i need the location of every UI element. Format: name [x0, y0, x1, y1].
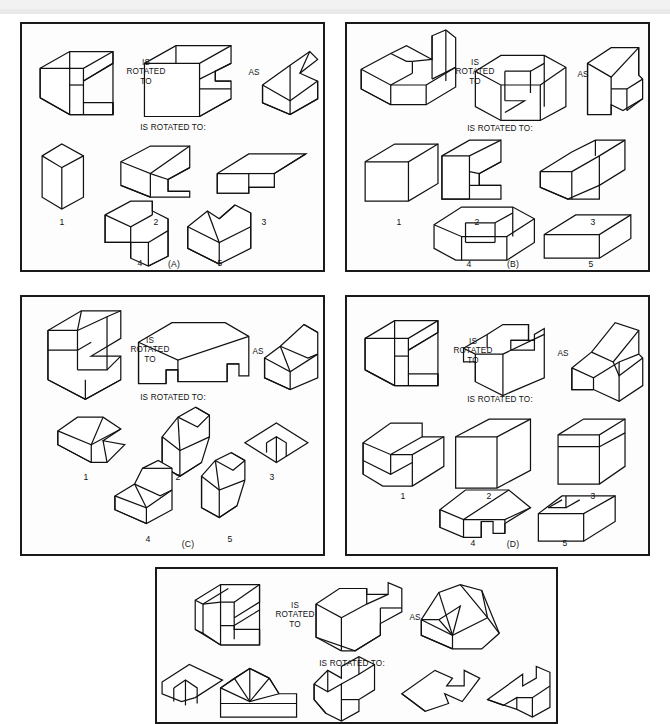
panel-d-stem-object [365, 321, 438, 386]
panel-c-option-2-label[interactable]: 2 [170, 473, 186, 483]
panel-b-as-label: AS [573, 70, 593, 80]
panel-b-option-1-label[interactable]: 1 [391, 218, 407, 228]
panel-d-option-2-label[interactable]: 2 [481, 492, 497, 502]
panel-d-option-1-label[interactable]: 1 [395, 492, 411, 502]
panel-d-option-3-label[interactable]: 3 [585, 492, 601, 502]
page-header-band [0, 9, 670, 14]
panel-e-option-2-figure [221, 668, 297, 717]
panel-d-as-object [572, 323, 643, 402]
panel-b-caption: (B) [499, 260, 527, 270]
panel-a-option-2-figure [121, 146, 190, 197]
panel-b-option-3-figure [540, 140, 625, 199]
panel-e-as-object [421, 585, 499, 649]
panel-b-option-5-label[interactable]: 5 [583, 260, 599, 270]
panel-d-caption: (D) [499, 540, 527, 550]
panel-a-option-5-figure [188, 205, 251, 264]
panel-a-option-4-label[interactable]: 4 [132, 259, 148, 269]
panel-a-option-1-label[interactable]: 1 [54, 218, 70, 228]
panel-b-stem-object [361, 30, 455, 105]
panel-d-question-label: IS ROTATED TO: [435, 395, 565, 405]
panel-d-option-3-figure [558, 419, 625, 484]
panel-d-prompt-label: IS ROTATED TO [449, 337, 497, 365]
panel-a-prompt-label: IS ROTATED TO [122, 58, 170, 86]
panel-c-prompt-label: IS ROTATED TO [126, 336, 174, 364]
panel-a-caption: (A) [160, 260, 188, 270]
panel-b-question-label: IS ROTATED TO: [435, 124, 565, 134]
panel-b-prompt-label: IS ROTATED TO [451, 58, 499, 86]
panel-a-option-4-figure [105, 201, 168, 266]
panel-b: IS ROTATED TO AS IS ROTATED TO: 1 2 3 4 … [345, 22, 650, 272]
panel-b-option-4-label[interactable]: 4 [461, 260, 477, 270]
panel-a-option-3-label[interactable]: 3 [256, 218, 272, 228]
panel-e-rotated-object [316, 583, 402, 651]
panel-d-option-5-label[interactable]: 5 [557, 539, 573, 549]
panel-a-option-2-label[interactable]: 2 [148, 218, 164, 228]
panel-e-figures [157, 569, 556, 722]
panel-c-as-label: AS [248, 347, 268, 357]
panel-e-prompt-label: IS ROTATED TO [271, 601, 319, 629]
panel-c-option-3-label[interactable]: 3 [264, 473, 280, 483]
panel-a-option-5-label[interactable]: 5 [212, 259, 228, 269]
panel-a-option-1-figure [42, 144, 83, 209]
panel-c-option-1-label[interactable]: 1 [78, 473, 94, 483]
panel-a-figures [22, 24, 323, 270]
panel-a: IS ROTATED TO AS IS ROTATED TO: 1 2 3 4 … [20, 22, 325, 272]
panel-c: IS ROTATED TO AS IS ROTATED TO: 1 2 3 4 … [20, 295, 325, 556]
panel-c-option-5-figure [202, 453, 245, 518]
panel-c-option-2-figure [162, 407, 209, 476]
panel-a-as-object [263, 52, 318, 115]
panel-c-option-1-figure [58, 417, 125, 462]
figure-page: IS ROTATED TO AS IS ROTATED TO: 1 2 3 4 … [0, 0, 670, 724]
panel-b-option-2-label[interactable]: 2 [469, 218, 485, 228]
panel-d-option-5-figure [538, 496, 615, 541]
panel-a-stem-object [40, 52, 113, 115]
panel-b-option-1-figure [365, 144, 438, 201]
panel-e-option-1-figure [162, 665, 222, 706]
panel-b-option-3-label[interactable]: 3 [585, 218, 601, 228]
panel-a-option-3-figure [217, 154, 306, 193]
panel-e: IS ROTATED TO AS IS ROTATED TO: [155, 567, 558, 724]
panel-a-question-label: IS ROTATED TO: [108, 123, 238, 133]
panel-b-as-object [588, 48, 643, 115]
panel-d-option-4-label[interactable]: 4 [465, 539, 481, 549]
panel-c-option-4-label[interactable]: 4 [140, 535, 156, 545]
panel-c-option-4-figure [115, 460, 172, 523]
panel-e-as-label: AS [405, 613, 425, 623]
panel-c-option-3-figure [245, 423, 308, 462]
panel-b-option-2-figure [442, 140, 501, 199]
panel-c-as-object [265, 325, 318, 390]
panel-e-option-4-figure [402, 670, 480, 711]
panel-d-as-label: AS [553, 349, 573, 359]
panel-c-option-5-label[interactable]: 5 [222, 535, 238, 545]
panel-c-caption: (C) [174, 540, 202, 550]
panel-b-option-4-figure [434, 207, 534, 260]
panel-d-option-2-figure [456, 419, 531, 488]
panel-d-figures [347, 297, 648, 554]
panel-d: IS ROTATED TO AS IS ROTATED TO: 1 2 3 4 … [345, 295, 650, 556]
panel-a-as-label: AS [244, 68, 264, 78]
panel-e-stem-object [195, 585, 259, 645]
page-header-strip [0, 0, 670, 9]
panel-e-option-5-figure [488, 666, 550, 717]
panel-e-question-label: IS ROTATED TO: [287, 659, 417, 669]
panel-c-stem-object [48, 311, 121, 400]
panel-c-question-label: IS ROTATED TO: [108, 393, 238, 403]
panel-d-option-1-figure [363, 423, 444, 486]
